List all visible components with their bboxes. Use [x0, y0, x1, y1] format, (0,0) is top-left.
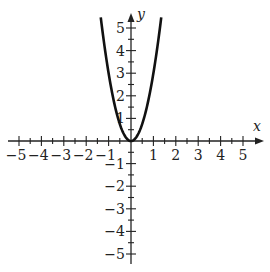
y-tick-label: 3 — [116, 65, 125, 81]
x-tick-label: −3 — [50, 147, 71, 163]
y-tick-label: −3 — [104, 201, 125, 217]
y-tick-label: 4 — [116, 43, 125, 59]
x-tick-label: −4 — [28, 147, 49, 163]
y-tick-label: −5 — [104, 246, 125, 262]
y-tick-label: −1 — [104, 156, 125, 172]
x-axis-arrowhead-icon — [255, 138, 264, 145]
y-tick-label: 2 — [116, 88, 125, 104]
x-tick-label: 5 — [239, 147, 248, 163]
x-tick-label: 3 — [194, 147, 203, 163]
y-tick-label: −2 — [104, 178, 125, 194]
y-axis-label: y — [136, 6, 146, 22]
x-tick-label: −2 — [73, 147, 94, 163]
x-axis-label: x — [253, 118, 261, 134]
y-tick-label: −4 — [104, 223, 125, 239]
parabola-graph: −5−4−3−2−112345−5−4−3−2−112345 x y — [0, 0, 270, 272]
x-tick-label: 4 — [216, 147, 225, 163]
x-tick-label: 2 — [171, 147, 180, 163]
y-tick-label: 5 — [116, 20, 125, 36]
x-tick-label: −5 — [6, 147, 27, 163]
y-axis-arrowhead-icon — [128, 13, 135, 22]
x-tick-label: 1 — [149, 147, 158, 163]
